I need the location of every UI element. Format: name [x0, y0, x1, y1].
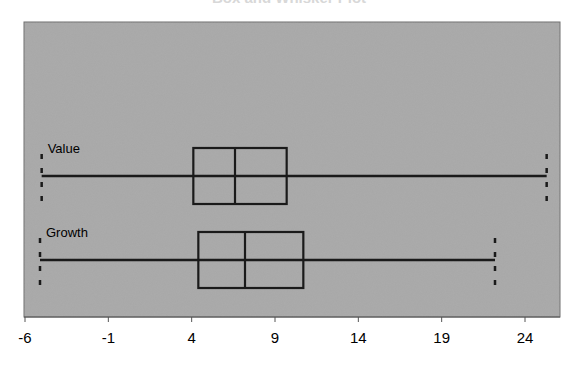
- x-tick-label: 19: [433, 329, 450, 346]
- box-plot-chart: -6-149141924 ValueGrowth: [0, 0, 578, 365]
- x-tick-label: 9: [271, 329, 279, 346]
- x-axis: -6-149141924: [18, 317, 560, 346]
- x-tick-label: -6: [18, 329, 31, 346]
- series-label: Value: [48, 141, 80, 156]
- x-tick-label: 4: [187, 329, 195, 346]
- x-tick-label: 14: [350, 329, 367, 346]
- x-tick-label: 24: [517, 329, 534, 346]
- x-tick-label: -1: [102, 329, 115, 346]
- series-label: Growth: [46, 225, 88, 240]
- plot-area: [24, 22, 560, 317]
